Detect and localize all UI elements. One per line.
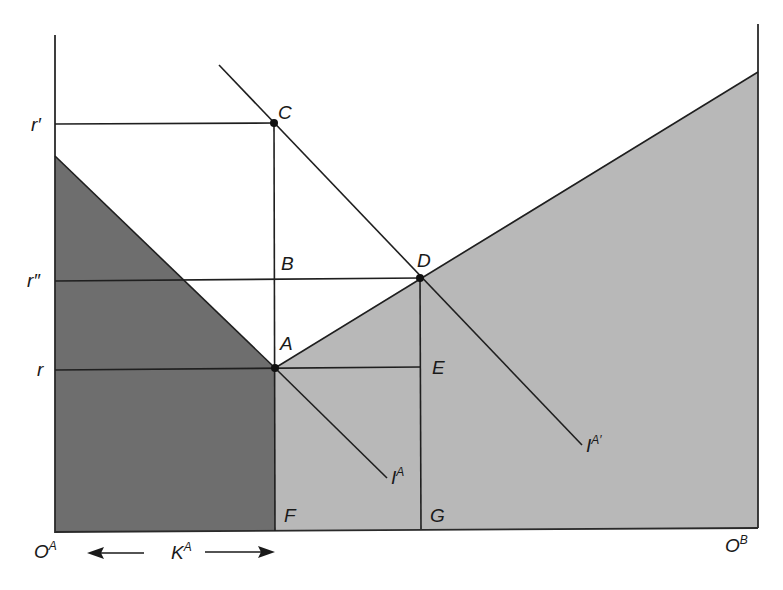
label-capital-A: KA: [171, 540, 192, 563]
point-D: [416, 274, 424, 282]
label-origin-A: OA: [34, 539, 57, 562]
capital-arrow-right: [205, 546, 275, 558]
point-C: [270, 119, 278, 127]
r-prime-line: [55, 123, 274, 124]
diagram-canvas: r′ r″ r C B D A E F G IA IA′ OA OB KA: [0, 0, 783, 590]
label-r-prime: r′: [31, 114, 42, 135]
c-f-vertical: [274, 123, 275, 531]
label-E: E: [432, 357, 445, 378]
dark-region: [55, 156, 275, 532]
label-r: r: [37, 359, 44, 380]
label-B: B: [281, 253, 294, 274]
label-G: G: [430, 505, 445, 526]
d-g-vertical: [420, 278, 421, 529]
label-D: D: [417, 250, 431, 271]
capital-arrow-left: [87, 547, 144, 559]
label-C: C: [278, 102, 292, 123]
label-F: F: [284, 505, 297, 526]
light-region: [275, 72, 758, 531]
point-A: [271, 364, 279, 372]
label-r-double-prime: r″: [27, 270, 41, 291]
label-A: A: [279, 333, 293, 354]
label-origin-B: OB: [725, 533, 748, 556]
